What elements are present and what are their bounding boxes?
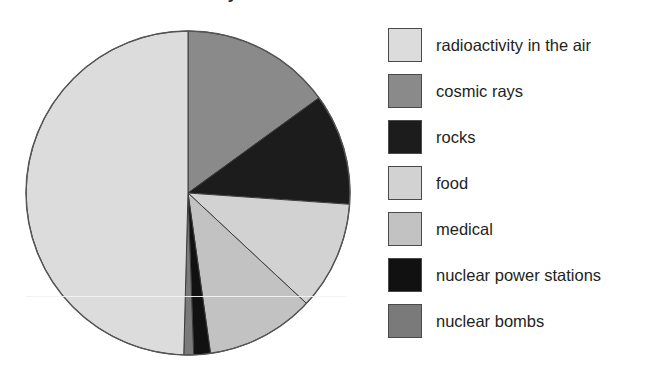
legend-item[interactable]: food — [388, 160, 650, 206]
legend-item[interactable]: nuclear bombs — [388, 298, 650, 344]
legend-item[interactable]: radioactivity in the air — [388, 22, 650, 68]
swatch-nuclear-power-stations — [388, 258, 422, 292]
chart-legend: radioactivity in the air cosmic rays roc… — [388, 22, 650, 344]
legend-item[interactable]: medical — [388, 206, 650, 252]
swatch-radioactivity-in-the-air — [388, 28, 422, 62]
legend-item-label: nuclear power stations — [436, 266, 601, 284]
legend-item[interactable]: cosmic rays — [388, 68, 650, 114]
pie-chart-svg — [0, 0, 380, 382]
legend-item[interactable]: nuclear power stations — [388, 252, 650, 298]
swatch-food — [388, 166, 422, 200]
legend-item-label: food — [436, 174, 468, 192]
legend-item[interactable]: rocks — [388, 114, 650, 160]
legend-item-label: nuclear bombs — [436, 312, 544, 330]
legend-item-label: radioactivity in the air — [436, 36, 591, 54]
legend-item-label: rocks — [436, 128, 475, 146]
swatch-nuclear-bombs — [388, 304, 422, 338]
swatch-rocks — [388, 120, 422, 154]
pie-chart-figure: Sources of radioactivity radioactivity i… — [0, 0, 653, 382]
swatch-medical — [388, 212, 422, 246]
scan-line-artifact — [26, 296, 346, 297]
pie-chart-area — [0, 0, 380, 382]
pie-slice-group — [26, 31, 350, 355]
legend-item-label: cosmic rays — [436, 82, 523, 100]
pie-slice-radioactivity-in-the-air[interactable] — [26, 31, 188, 355]
swatch-cosmic-rays — [388, 74, 422, 108]
legend-item-label: medical — [436, 220, 493, 238]
